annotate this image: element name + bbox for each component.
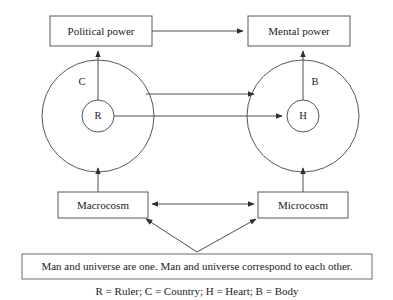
arrow-caption-to-macrocosm [146,219,197,252]
node-label-country: C [78,76,85,87]
box-macrocosm-label: Macrocosm [77,199,129,211]
node-label-body: B [311,76,318,87]
diagram-svg: Political power Mental power Macrocosm M… [0,0,393,300]
box-mental-power-label: Mental power [268,25,330,37]
arrow-caption-to-microcosm [197,219,256,252]
caption-text: Man and universe are one. Man and univer… [41,260,352,272]
legend-text: R = Ruler; C = Country; H = Heart; B = B… [96,285,299,297]
node-label-ruler: R [94,110,101,121]
node-label-heart: H [299,110,307,121]
figure-canvas: Political power Mental power Macrocosm M… [0,0,393,300]
box-political-power-label: Political power [68,25,135,37]
box-microcosm-label: Microcosm [278,199,329,211]
